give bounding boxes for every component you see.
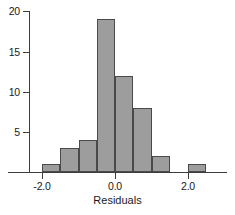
plot-area: 5101520 -2.00.02.0 Residuals	[0, 0, 235, 215]
y-axis-tick	[23, 132, 30, 133]
histogram-bar	[115, 76, 133, 172]
histogram-bar	[133, 108, 151, 172]
x-axis-tick	[188, 173, 189, 179]
histogram-bar	[79, 140, 97, 172]
x-axis-tick-label: 2.0	[168, 180, 208, 192]
x-axis-tick-label: -2.0	[22, 180, 62, 192]
histogram-bar	[188, 164, 206, 172]
y-axis-tick	[23, 52, 30, 53]
histogram-bar	[152, 156, 170, 172]
x-axis-tick	[115, 173, 116, 179]
x-axis-tick	[42, 173, 43, 179]
histogram-figure: 5101520 -2.00.02.0 Residuals	[0, 0, 235, 215]
histogram-bar	[97, 19, 115, 172]
histogram-bar	[60, 148, 78, 172]
x-axis-tick-label: 0.0	[95, 180, 135, 192]
y-axis-tick-label: 15	[0, 47, 20, 57]
y-axis-tick	[23, 11, 30, 12]
y-axis-tick-label: 10	[0, 87, 20, 97]
y-axis-tick	[23, 92, 30, 93]
histogram-bar	[42, 164, 60, 172]
x-axis-title: Residuals	[0, 194, 235, 206]
x-axis-line	[8, 172, 227, 173]
y-axis-tick-label: 20	[0, 6, 20, 16]
y-axis-tick-label: 5	[0, 127, 20, 137]
